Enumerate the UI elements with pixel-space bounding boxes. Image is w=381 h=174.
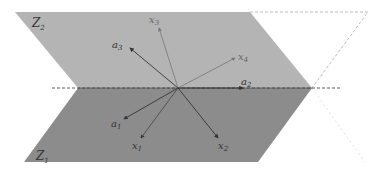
plane-z1 xyxy=(24,88,312,162)
subspace-diagram: Z2 Z1 a3 x3 x4 a2 a1 x1 x2 xyxy=(0,0,381,174)
plane-z2 xyxy=(15,12,312,88)
